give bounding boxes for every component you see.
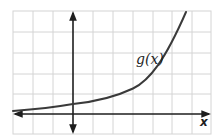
graph-canvas: g(x) x xyxy=(0,0,218,137)
grid-border xyxy=(13,11,211,134)
curve-label: g(x) xyxy=(136,51,164,67)
grid-lines xyxy=(13,11,211,134)
x-axis-label: x xyxy=(199,115,209,129)
